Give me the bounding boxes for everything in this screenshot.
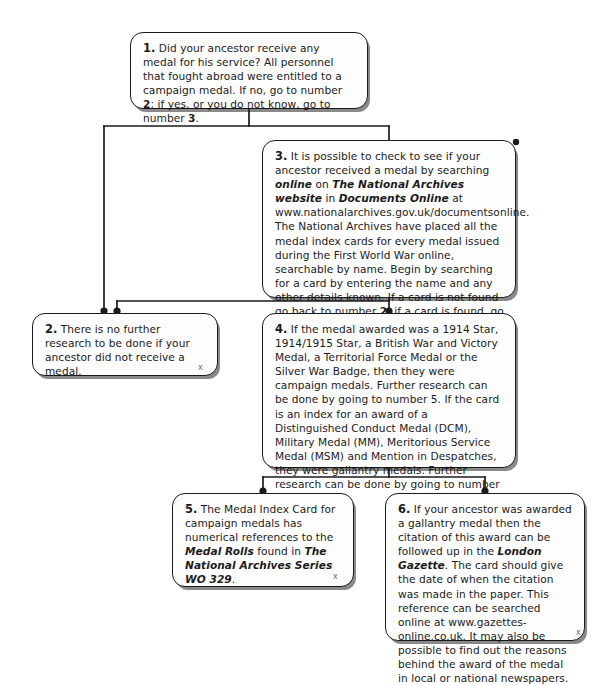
flowchart-node-5: 5. The Medal Index Card for campaign med…: [172, 493, 354, 587]
node-3-text: It is possible to check to see if your a…: [275, 150, 529, 331]
node-5-number: 5.: [185, 502, 197, 516]
flowchart-node-1: 1. Did your ancestor receive any medal f…: [130, 32, 368, 109]
flowchart-node-6: 6. If your ancestor was awarded a gallan…: [385, 493, 585, 641]
node-2-text: There is no further research to be done …: [45, 323, 190, 377]
flowchart-node-4: 4. If the medal awarded was a 1914 Star,…: [262, 313, 516, 468]
node-1-number: 1.: [143, 41, 155, 55]
scan-artifact-x: x: [333, 572, 338, 581]
node-4-number: 4.: [275, 322, 287, 336]
node-1-text: Did your ancestor receive any medal for …: [143, 42, 342, 124]
flowchart-node-2: 2. There is no further research to be do…: [32, 313, 218, 376]
node-5-text: The Medal Index Card for campaign medals…: [185, 503, 335, 585]
node-3-number: 3.: [275, 149, 287, 163]
scan-artifact-x: x: [576, 628, 581, 637]
junction-dot-node3-corner: [513, 139, 519, 145]
node-6-number: 6.: [398, 502, 410, 516]
node-2-number: 2.: [45, 322, 57, 336]
flowchart-node-3: 3. It is possible to check to see if you…: [262, 140, 516, 298]
scan-artifact-x: x: [198, 363, 203, 372]
node-4-text: If the medal awarded was a 1914 Star, 19…: [275, 323, 500, 504]
node-6-text: If your ancestor was awarded a gallantry…: [398, 503, 572, 684]
